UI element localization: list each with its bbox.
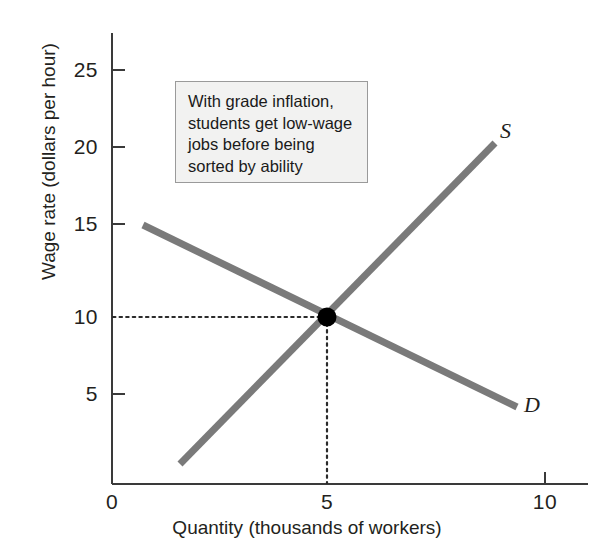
supply-curve <box>180 143 495 464</box>
y-axis-title: Wage rate (dollars per hour) <box>38 43 60 280</box>
y-axis-ticks <box>112 70 125 394</box>
supply-curve-label: S <box>500 118 511 144</box>
annotation-box: With grade inflation, students get low-w… <box>175 81 368 183</box>
x-tick-label-0: 0 <box>92 490 132 514</box>
x-tick-label-10: 10 <box>525 490 565 514</box>
supply-demand-chart: 25 20 15 10 5 0 5 10 Wage rate (dollars … <box>0 0 614 551</box>
demand-curve-label: D <box>524 392 540 418</box>
annotation-text: With grade inflation, students get low-w… <box>188 91 356 177</box>
x-axis-title: Quantity (thousands of workers) <box>172 517 441 539</box>
equilibrium-point <box>318 308 337 327</box>
y-tick-label-10: 10 <box>52 305 98 329</box>
x-tick-label-5: 5 <box>307 490 347 514</box>
y-tick-label-5: 5 <box>52 382 98 406</box>
